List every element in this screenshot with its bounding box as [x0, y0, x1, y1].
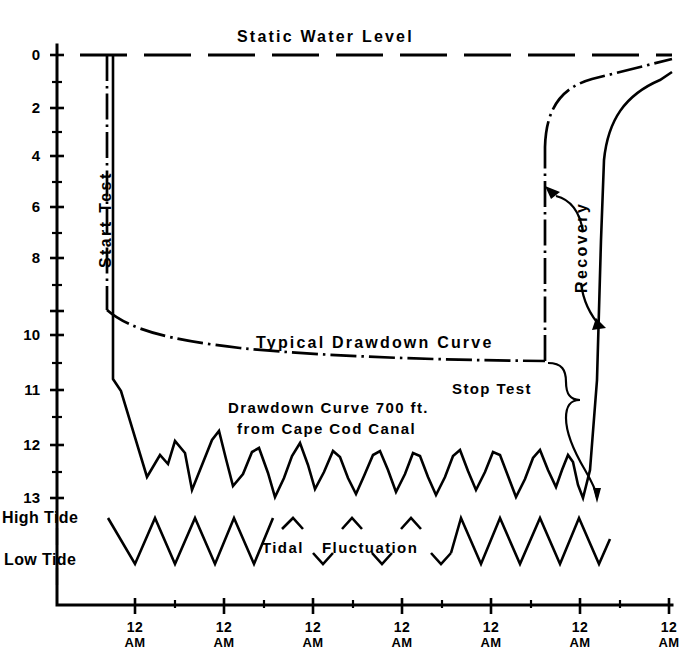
- low-tide-label: Low Tide: [4, 552, 76, 568]
- y-tick-label-10: 10: [6, 327, 40, 342]
- x-tick-hour-3: 12: [305, 619, 322, 635]
- x-tick-hour-5: 12: [483, 619, 500, 635]
- y-tick-label-0: 0: [6, 47, 40, 62]
- x-tick-label-5: 12 AM: [471, 620, 511, 649]
- x-tick-ampm-2: AM: [204, 636, 244, 649]
- x-tick-ampm-3: AM: [293, 636, 333, 649]
- x-tick-hour-2: 12: [216, 619, 233, 635]
- x-tick-ampm-5: AM: [471, 636, 511, 649]
- y-tick-label-13: 13: [6, 490, 40, 505]
- stop-test-arrowhead: [593, 488, 601, 503]
- drawdown-chart-figure: [0, 0, 699, 663]
- start-test-label: Start Test: [98, 171, 114, 268]
- x-tick-hour-7: 12: [661, 619, 678, 635]
- typical-drawdown-curve-label: Typical Drawdown Curve: [256, 335, 493, 351]
- y-tick-label-6: 6: [6, 199, 40, 214]
- y-tick-label-2: 2: [6, 100, 40, 115]
- x-tick-ampm-6: AM: [560, 636, 600, 649]
- y-tick-label-11: 11: [6, 382, 40, 397]
- x-tick-label-2: 12 AM: [204, 620, 244, 649]
- x-tick-label-4: 12 AM: [382, 620, 422, 649]
- fluctuation-label: Fluctuation: [322, 540, 418, 555]
- x-tick-hour-4: 12: [394, 619, 411, 635]
- x-tick-hour-1: 12: [127, 619, 144, 635]
- tidal-label: Tidal: [262, 540, 304, 555]
- y-tick-label-4: 4: [6, 148, 40, 163]
- x-tick-hour-6: 12: [572, 619, 589, 635]
- x-tick-ampm-4: AM: [382, 636, 422, 649]
- y-tick-label-8: 8: [6, 250, 40, 265]
- x-tick-label-3: 12 AM: [293, 620, 333, 649]
- stop-test-label: Stop Test: [452, 381, 532, 396]
- drawdown-curve-700ft-label-line1: Drawdown Curve 700 ft.: [228, 400, 429, 415]
- high-tide-label: High Tide: [2, 510, 78, 526]
- drawdown-curve-700ft-label-line2: from Cape Cod Canal: [237, 421, 416, 436]
- x-tick-label-6: 12 AM: [560, 620, 600, 649]
- x-tick-ampm-1: AM: [115, 636, 155, 649]
- recovery-label: Recovery: [574, 202, 590, 293]
- y-tick-label-12: 12: [6, 437, 40, 452]
- static-water-level-label: Static Water Level: [237, 29, 414, 45]
- x-tick-ampm-7: AM: [649, 636, 689, 649]
- x-tick-label-1: 12 AM: [115, 620, 155, 649]
- x-tick-label-7: 12 AM: [649, 620, 689, 649]
- chart-page: 0 2 4 6 8 10 11 12 13 High Tide Low Tide…: [0, 0, 699, 663]
